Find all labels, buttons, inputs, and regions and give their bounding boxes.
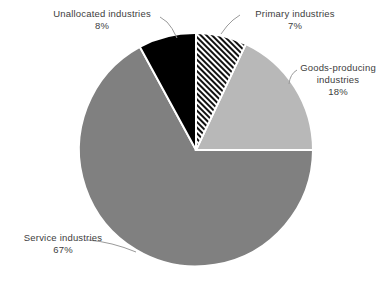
pie-label-goods-producing-industries: Goods-producing industries 18% [292,62,384,98]
pie-label-name-primary-industries: Primary industries [255,8,334,19]
pie-label-value-service-industries: 67% [2,244,124,256]
pie-label-unallocated-industries: Unallocated industries 8% [41,8,163,32]
pie-label-name-service-industries: Service industries [24,232,102,243]
pie-label-value-unallocated-industries: 8% [41,20,163,32]
pie-label-name-goods-producing-industries: Goods-producing [300,62,376,73]
pie-label-service-industries: Service industries 67% [2,232,124,256]
pie-label-name-unallocated-industries: Unallocated industries [53,8,151,19]
leader-line-primary-industries [221,15,240,34]
pie-label-primary-industries: Primary industries 7% [240,8,350,32]
pie-chart: Unallocated industries 8% Primary indust… [0,0,385,282]
pie-label-value-goods-producing-industries: 18% [292,86,384,98]
pie-label-name2-goods-producing-industries: industries [292,74,384,86]
pie-label-value-primary-industries: 7% [240,20,350,32]
